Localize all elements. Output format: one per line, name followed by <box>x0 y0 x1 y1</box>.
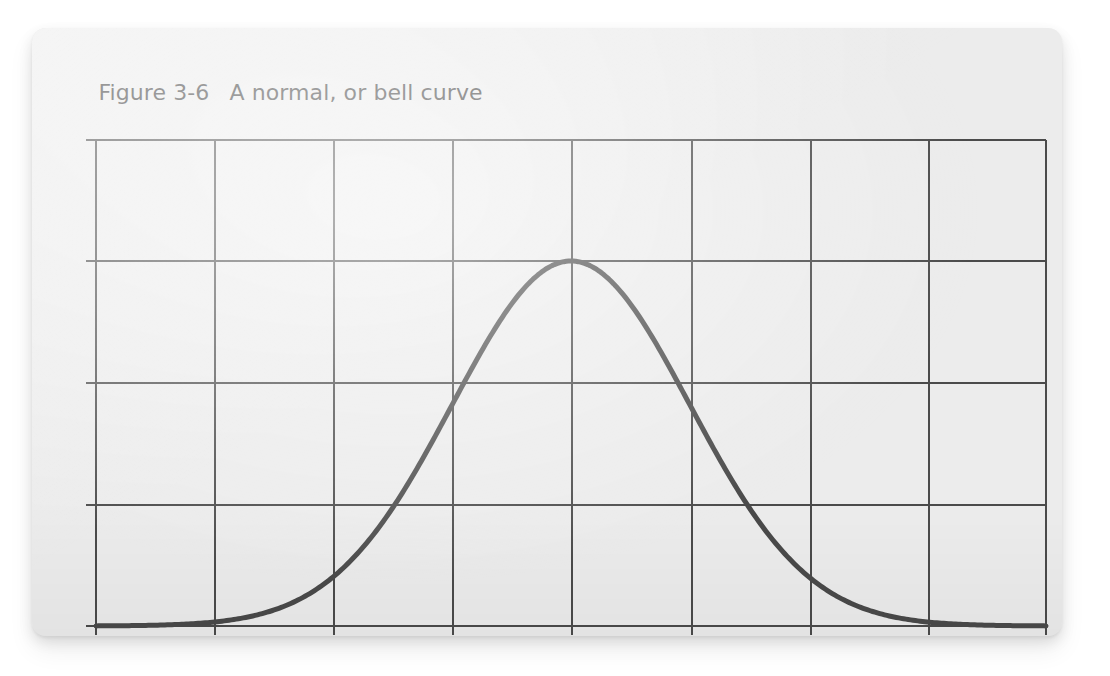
bell-curve-line <box>96 261 1046 626</box>
grid-vertical-lines <box>96 140 1046 635</box>
bell-curve-plot <box>48 90 1048 610</box>
figure-card: Figure 3-6A normal, or bell curve <box>32 28 1062 636</box>
grid-horizontal-lines <box>86 140 1046 626</box>
bell-curve-svg <box>48 90 1048 610</box>
